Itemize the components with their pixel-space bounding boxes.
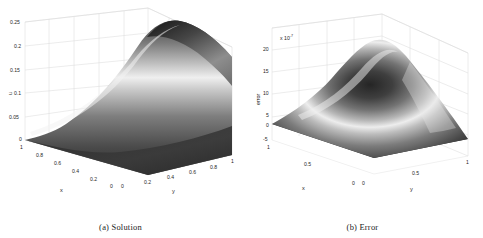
ytick-error: 0.5 [412,170,419,176]
xtick-error: 1 [267,144,270,150]
caption-error: (b) Error [242,222,483,232]
ztick-error: 10 [263,90,269,96]
ytick-error: 1 [466,159,469,165]
xtick-solution: 0.4 [72,168,79,174]
ztick-error: -5 [263,136,268,142]
ytick-solution: 1 [231,158,234,164]
z-exponent-label-error: x 10-7 [280,34,293,41]
surface-mesh-error [272,40,468,158]
zaxis-label-solution: u [7,92,13,95]
ztick-error: 5 [266,112,269,118]
panel-error: x 10-7 20 15 10 5 0 -5 error 1 0.5 0 x 0… [242,0,483,238]
surface-mesh-solution [25,20,232,175]
xtick-solution: 0 [110,183,113,189]
xaxis-label-error: x [302,185,305,191]
ztick-solution: 0.15 [10,67,20,73]
ztick-solution: 0.2 [14,43,21,49]
ztick-error: 0 [266,122,269,128]
plot-area-error: x 10-7 20 15 10 5 0 -5 error 1 0.5 0 x 0… [242,0,483,205]
xtick-solution: 0.8 [36,152,43,158]
caption-solution: (a) Solution [0,222,241,232]
yaxis-label-error: y [410,186,413,192]
xtick-error: 0.5 [304,161,311,167]
z-exponent-mantissa: x 10 [280,35,290,41]
xtick-error: 0 [352,180,355,186]
ztick-solution: 0 [19,136,22,142]
xtick-solution: 1 [20,144,23,150]
xtick-solution: 0.2 [90,176,97,182]
xtick-solution: 0.6 [54,160,61,166]
surface-plot-error [242,0,483,205]
panel-solution: 0.25 0.2 0.15 0.1 0.05 0 u 1 0.8 0.6 0.4… [0,0,241,238]
yaxis-label-solution: y [172,188,175,194]
ytick-solution: 0 [121,183,124,189]
surface-plot-solution [0,0,241,205]
ytick-solution: 0.8 [210,164,217,170]
ztick-solution: 0.1 [14,90,21,96]
ztick-solution: 0.25 [10,19,20,25]
xaxis-label-solution: x [60,187,63,193]
ztick-error: 15 [263,68,269,74]
zaxis-label-error: error [255,94,261,105]
figure-two-surface-plots: 0.25 0.2 0.15 0.1 0.05 0 u 1 0.8 0.6 0.4… [0,0,483,238]
ztick-error: 20 [263,46,269,52]
ztick-solution: 0.05 [9,114,19,120]
z-exponent-power: -7 [290,34,293,38]
ytick-solution: 0.2 [144,179,151,185]
ytick-error: 0 [362,180,365,186]
ytick-solution: 0.6 [189,169,196,175]
ytick-solution: 0.4 [167,174,174,180]
plot-area-solution: 0.25 0.2 0.15 0.1 0.05 0 u 1 0.8 0.6 0.4… [0,0,241,205]
